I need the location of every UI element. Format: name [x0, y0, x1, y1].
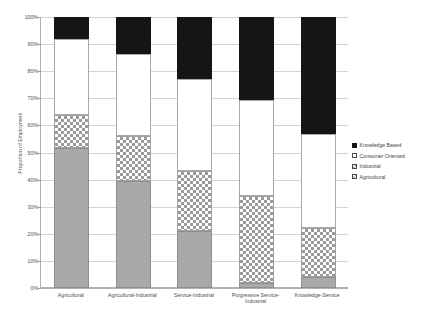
industrial-swatch-icon: [352, 164, 357, 169]
y-tick-label: 30%: [28, 204, 38, 210]
y-tick-label: 100%: [25, 14, 38, 20]
y-tick-label: 10%: [28, 258, 38, 264]
y-tick-label: 70%: [28, 95, 38, 101]
bar-segment-consumer-oriented[interactable]: [239, 100, 274, 196]
bar-segment-industrial[interactable]: [177, 171, 212, 231]
y-tick-label: 90%: [28, 41, 38, 47]
stacked-bar[interactable]: [177, 17, 212, 287]
legend-item-label: Agricultural: [360, 174, 386, 180]
bar-segment-consumer-oriented[interactable]: [54, 39, 89, 115]
legend-item-label: Consumer Oriented: [360, 153, 405, 159]
y-tick-label: 80%: [28, 68, 38, 74]
stacked-bar[interactable]: [54, 17, 89, 287]
consumer-swatch-icon: [352, 153, 357, 158]
bar-segment-knowledge-based[interactable]: [239, 17, 274, 100]
bar-slot: [41, 17, 103, 287]
bar-segment-agricultural[interactable]: [116, 181, 151, 288]
legend-item-knowledge[interactable]: Knowledge Based: [352, 140, 428, 151]
bar-segment-agricultural[interactable]: [177, 231, 212, 288]
bar-segment-agricultural[interactable]: [301, 277, 336, 288]
chart-legend: Knowledge BasedConsumer OrientedIndustri…: [352, 140, 428, 182]
plot-area: 0%10%20%30%40%50%60%70%80%90%100%: [40, 17, 348, 288]
y-axis-title: Proportion of Employment: [17, 78, 23, 208]
gridline: [41, 288, 348, 289]
x-tick-label: Agricultural: [40, 292, 102, 298]
bar-slot: [287, 17, 349, 287]
chart-figure: Proportion of Employment 0%10%20%30%40%5…: [0, 0, 428, 329]
bar-segment-industrial[interactable]: [239, 196, 274, 283]
x-tick-label: Progressive Service-Industrial: [225, 292, 287, 304]
y-tick-label: 40%: [28, 177, 38, 183]
bar-slot: [164, 17, 226, 287]
x-tick-label: Knowledge-Service: [286, 292, 348, 298]
legend-item-agricultural[interactable]: Agricultural: [352, 172, 428, 183]
y-tick-label: 20%: [28, 231, 38, 237]
bar-slot: [226, 17, 288, 287]
agricultural-swatch-icon: [352, 174, 357, 179]
x-tick-label: Service-Industrial: [163, 292, 225, 298]
stacked-bar[interactable]: [116, 17, 151, 287]
bar-segment-industrial[interactable]: [54, 115, 89, 149]
bar-segment-knowledge-based[interactable]: [177, 17, 212, 79]
x-tick-label: Agricultural-Industrial: [102, 292, 164, 298]
bar-segment-consumer-oriented[interactable]: [177, 79, 212, 171]
legend-item-label: Industrial: [360, 163, 381, 169]
bar-segment-agricultural[interactable]: [54, 148, 89, 288]
bar-segment-industrial[interactable]: [116, 136, 151, 181]
legend-item-consumer[interactable]: Consumer Oriented: [352, 151, 428, 162]
y-tick-label: 50%: [28, 150, 38, 156]
bar-segment-agricultural[interactable]: [239, 283, 274, 288]
stacked-bar[interactable]: [301, 17, 336, 287]
bar-segment-industrial[interactable]: [301, 228, 336, 277]
bar-segment-consumer-oriented[interactable]: [301, 134, 336, 229]
bar-segment-knowledge-based[interactable]: [54, 17, 89, 39]
bar-segment-knowledge-based[interactable]: [116, 17, 151, 54]
bar-segment-knowledge-based[interactable]: [301, 17, 336, 134]
y-tick-label: 60%: [28, 122, 38, 128]
legend-item-industrial[interactable]: Industrial: [352, 161, 428, 172]
y-tick-label: 0%: [31, 285, 39, 291]
knowledge-swatch-icon: [352, 143, 357, 148]
stacked-bar[interactable]: [239, 17, 274, 287]
bar-slot: [103, 17, 165, 287]
legend-item-label: Knowledge Based: [360, 142, 402, 148]
bar-segment-consumer-oriented[interactable]: [116, 54, 151, 137]
